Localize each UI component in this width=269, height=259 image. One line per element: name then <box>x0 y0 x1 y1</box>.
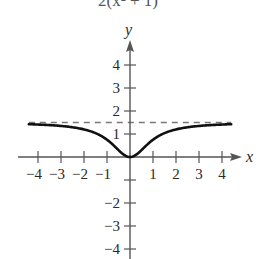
y-tick-label: 4 <box>113 57 121 73</box>
x-axis-label: x <box>245 148 253 165</box>
y-tick-label: −2 <box>104 195 120 211</box>
formula-fragment: 2(x² + 1) <box>98 0 158 10</box>
y-axis-label: y <box>123 21 133 39</box>
y-tick-label: 3 <box>113 80 121 96</box>
x-tick-label: −3 <box>49 166 65 182</box>
y-tick-label: 1 <box>113 126 121 142</box>
x-tick-label: −4 <box>26 166 42 182</box>
axes <box>18 40 242 259</box>
y-tick-label: −3 <box>104 218 120 234</box>
y-tick-label: −4 <box>104 241 120 257</box>
x-tick-label: 1 <box>149 166 157 182</box>
x-tick-label: −1 <box>95 166 111 182</box>
y-tick-label: 2 <box>113 103 121 119</box>
x-tick-label: −2 <box>72 166 88 182</box>
x-tick-label: 2 <box>172 166 180 182</box>
x-tick-label: 4 <box>218 166 226 182</box>
function-graph: 2(x² + 1) x y −4−3−2−11234−4−3−21234 <box>0 0 269 259</box>
x-tick-label: 3 <box>195 166 203 182</box>
